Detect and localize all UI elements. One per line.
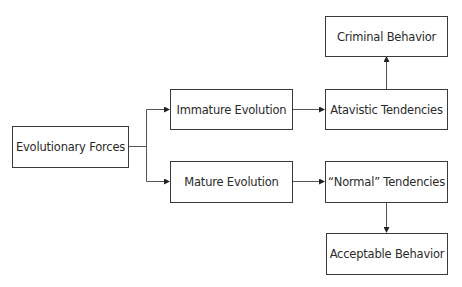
node-evolutionary-forces: Evolutionary Forces (12, 126, 129, 168)
node-label: Criminal Behavior (337, 30, 436, 44)
node-atavistic-tendencies: Atavistic Tendencies (325, 89, 448, 130)
node-label: “Normal” Tendencies (328, 175, 445, 189)
node-criminal-behavior: Criminal Behavior (325, 16, 448, 57)
node-normal-tendencies: “Normal” Tendencies (325, 161, 448, 203)
node-label: Immature Evolution (177, 103, 287, 117)
node-mature-evolution: Mature Evolution (170, 161, 293, 203)
node-label: Mature Evolution (184, 175, 278, 189)
node-label: Evolutionary Forces (16, 140, 125, 154)
node-acceptable-behavior: Acceptable Behavior (326, 233, 448, 275)
node-label: Atavistic Tendencies (330, 103, 443, 117)
node-immature-evolution: Immature Evolution (170, 89, 293, 130)
node-label: Acceptable Behavior (330, 247, 445, 261)
